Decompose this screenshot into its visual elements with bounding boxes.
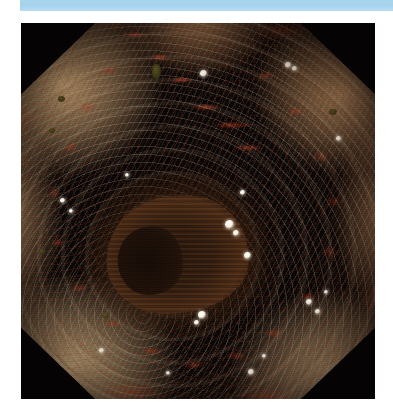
image-grain-overlay — [21, 23, 375, 399]
top-banner — [20, 0, 393, 11]
endoscopy-figure — [21, 23, 375, 399]
endoscope-field-of-view — [21, 23, 375, 399]
